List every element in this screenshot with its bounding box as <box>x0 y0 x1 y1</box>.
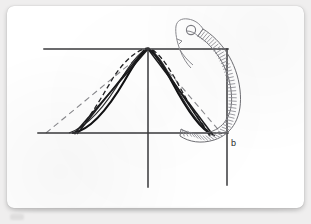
figure-root: b <box>0 0 311 224</box>
band-inner-edge <box>181 36 232 134</box>
pivot-hole-icon <box>186 25 195 34</box>
technical-drawing: b <box>7 6 304 208</box>
flexible-curve-band <box>180 29 241 142</box>
card-drop-shadow <box>14 208 297 213</box>
arch-bold-main <box>73 49 212 134</box>
chord-left-secondary <box>77 50 144 134</box>
band-cap-bottom <box>180 129 181 136</box>
tool-head <box>176 19 203 68</box>
label-point-b: b <box>231 138 236 148</box>
band-hatching <box>182 30 236 141</box>
arch-curves <box>69 48 215 136</box>
chord-right-secondary <box>152 50 210 136</box>
scan-artifact-fleck <box>10 214 24 220</box>
